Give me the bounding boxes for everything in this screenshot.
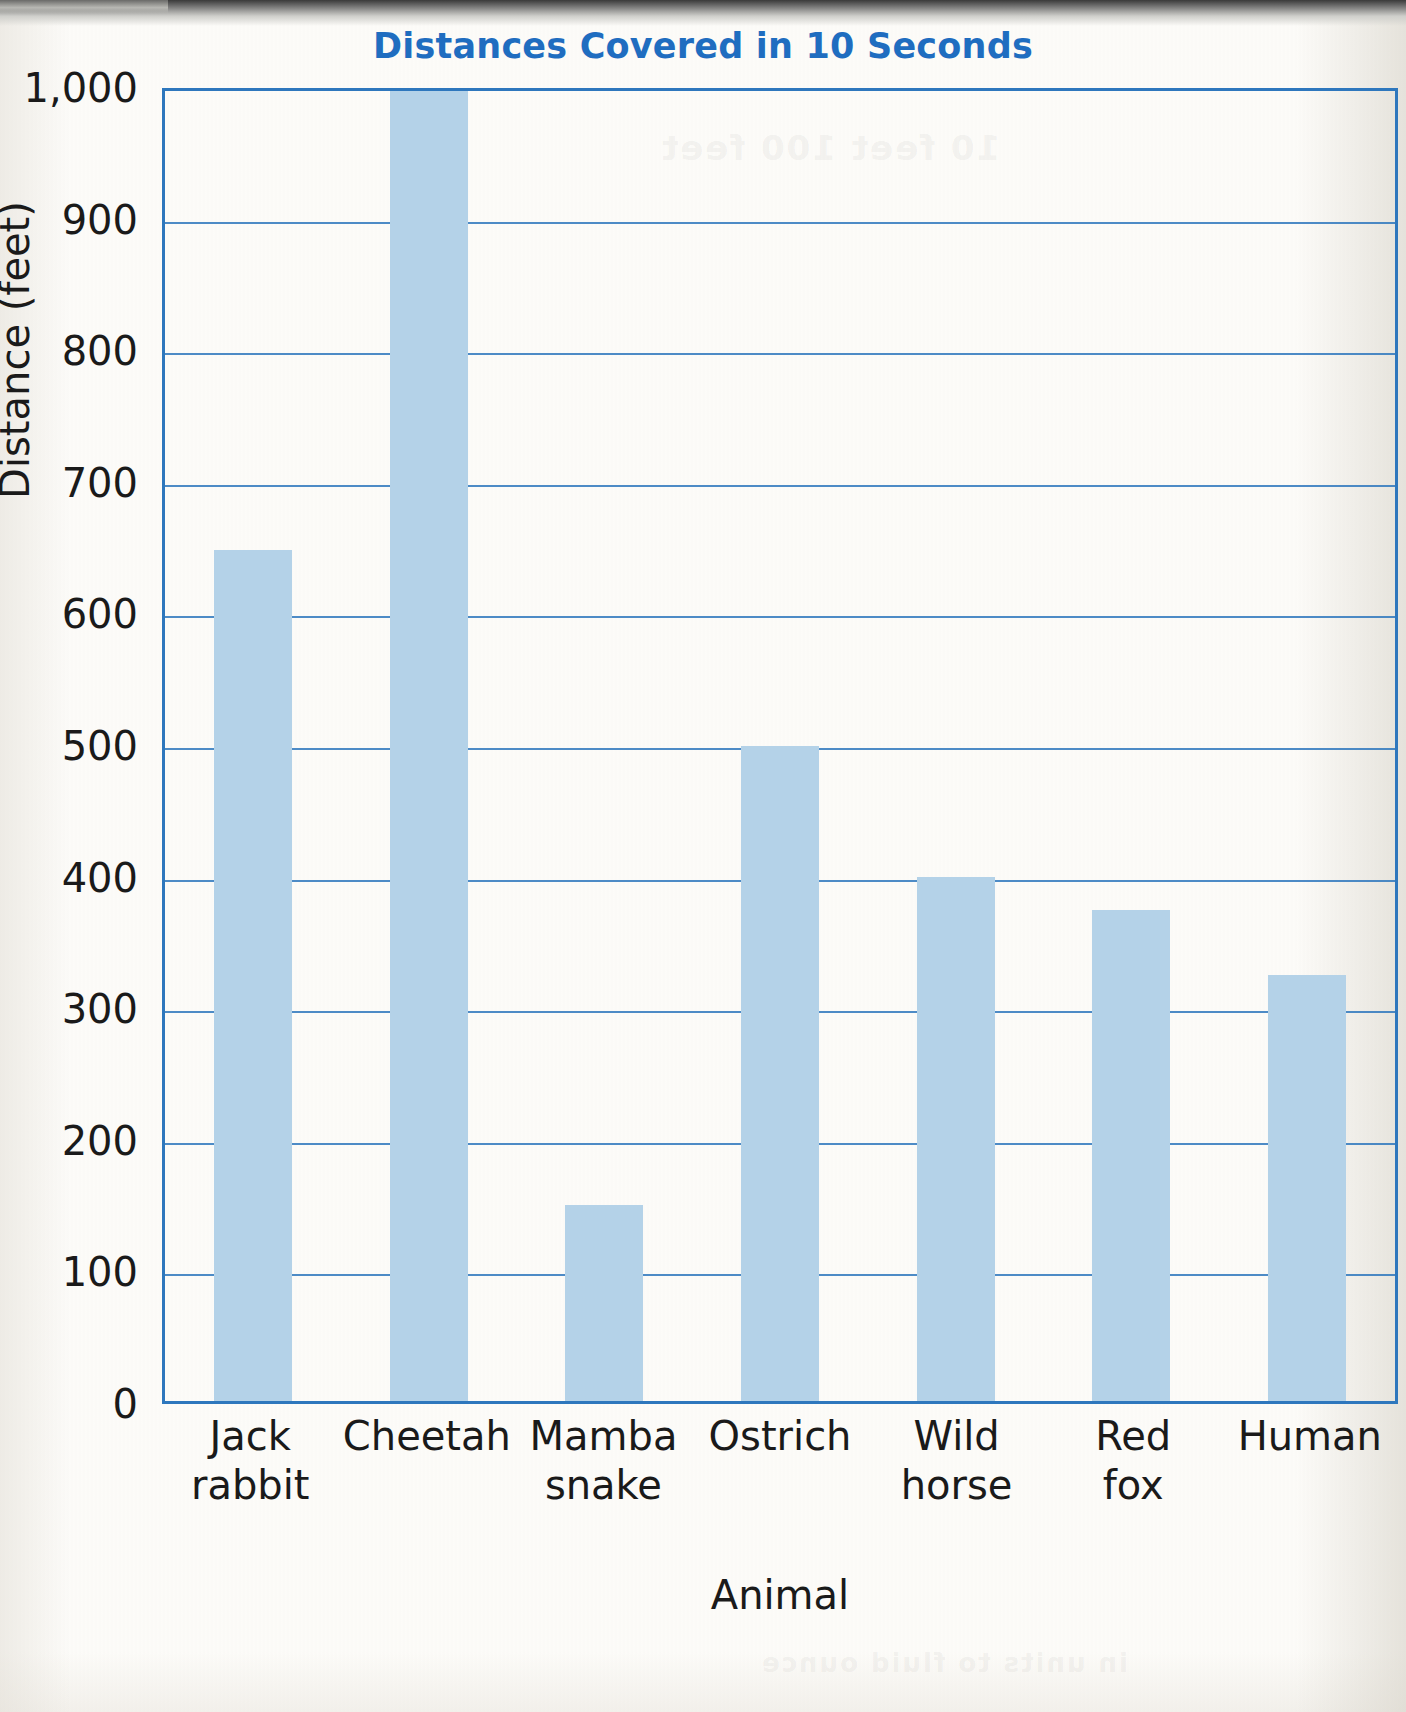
bar-chart: Distances Covered in 10 Seconds Distance… [0, 0, 1406, 1712]
bar-ostrich [741, 746, 819, 1401]
y-tick-200: 200 [62, 1118, 156, 1164]
y-tick-700: 700 [62, 460, 156, 506]
bar-column [165, 91, 341, 1401]
bar-cheetah [390, 91, 468, 1401]
y-tick-100: 100 [62, 1249, 156, 1295]
y-tick-500: 500 [62, 723, 156, 769]
y-tick-800: 800 [62, 328, 156, 374]
y-tick-400: 400 [62, 855, 156, 901]
bar-mamba-snake [565, 1205, 643, 1402]
y-axis-label: Distance (feet) [0, 140, 38, 560]
x-tick-cheetah: Cheetah [339, 1412, 516, 1542]
bar-column [868, 91, 1044, 1401]
chart-title: Distances Covered in 10 Seconds [0, 26, 1406, 66]
bar-column [341, 91, 517, 1401]
x-axis-tick-labels: JackrabbitCheetah MambasnakeOstrich Wild… [162, 1412, 1398, 1542]
y-tick-0: 0 [113, 1381, 156, 1427]
x-tick-mamba-snake: Mambasnake [515, 1412, 692, 1542]
bar-wild-horse [917, 877, 995, 1401]
bar-column [692, 91, 868, 1401]
bar-human [1268, 975, 1346, 1401]
x-tick-jack-rabbit: Jackrabbit [162, 1412, 339, 1542]
x-tick-wild-horse: Wildhorse [868, 1412, 1045, 1542]
bar-jack-rabbit [214, 550, 292, 1402]
bar-red-fox [1092, 910, 1170, 1401]
x-tick-ostrich: Ostrich [692, 1412, 869, 1542]
bar-series [165, 91, 1395, 1401]
bar-column [516, 91, 692, 1401]
x-tick-red-fox: Redfox [1045, 1412, 1222, 1542]
y-tick-300: 300 [62, 986, 156, 1032]
plot-area [162, 88, 1398, 1404]
x-tick-human: Human [1221, 1412, 1398, 1542]
bar-column [1219, 91, 1395, 1401]
y-tick-600: 600 [62, 591, 156, 637]
bar-column [1044, 91, 1220, 1401]
x-axis-label: Animal [162, 1572, 1398, 1618]
y-tick-900: 900 [62, 197, 156, 243]
y-tick-1000: 1,000 [23, 65, 156, 111]
